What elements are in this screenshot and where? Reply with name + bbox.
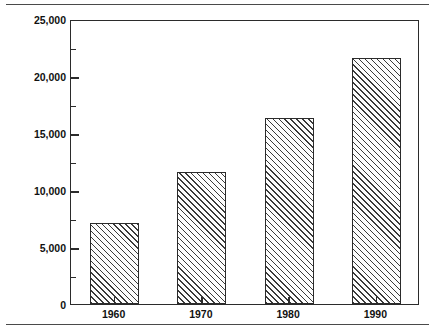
bar-chart-figure: Billions of Dollars 05,00010,00015,00020… [0,0,435,333]
y-axis-major-tick [71,77,79,79]
y-tick-label: 25,000 [20,15,66,26]
y-axis-major-tick [71,191,79,193]
y-axis-minor-tick [71,163,76,165]
x-axis-tick [201,297,203,304]
y-axis-minor-tick [71,106,76,108]
y-axis-minor-tick [71,49,76,51]
plot-area [70,20,419,305]
top-divider-rule [6,4,429,5]
bar-series [71,21,418,304]
y-axis-tick-labels: 05,00010,00015,00020,00025,000 [14,0,66,333]
x-axis-tick [376,297,378,304]
y-axis-major-tick [71,134,79,136]
y-tick-label: 15,000 [20,129,66,140]
x-tick-label: 1960 [102,308,125,320]
x-tick-label: 1970 [189,308,212,320]
x-axis-tick-labels: 1960197019801990 [70,308,419,324]
x-axis-tick [288,297,290,304]
y-axis-major-tick [71,248,79,250]
y-tick-label: 0 [20,300,66,311]
bar [265,118,314,304]
bottom-divider-rule [6,324,429,325]
y-tick-label: 10,000 [20,186,66,197]
y-axis-minor-tick [71,277,76,279]
y-tick-label: 20,000 [20,72,66,83]
x-tick-label: 1990 [364,308,387,320]
x-tick-label: 1980 [276,308,299,320]
x-axis-tick [114,297,116,304]
y-tick-label: 5,000 [20,243,66,254]
y-axis-minor-tick [71,220,76,222]
bar [177,172,226,304]
bar [90,223,139,304]
bar [352,58,401,304]
